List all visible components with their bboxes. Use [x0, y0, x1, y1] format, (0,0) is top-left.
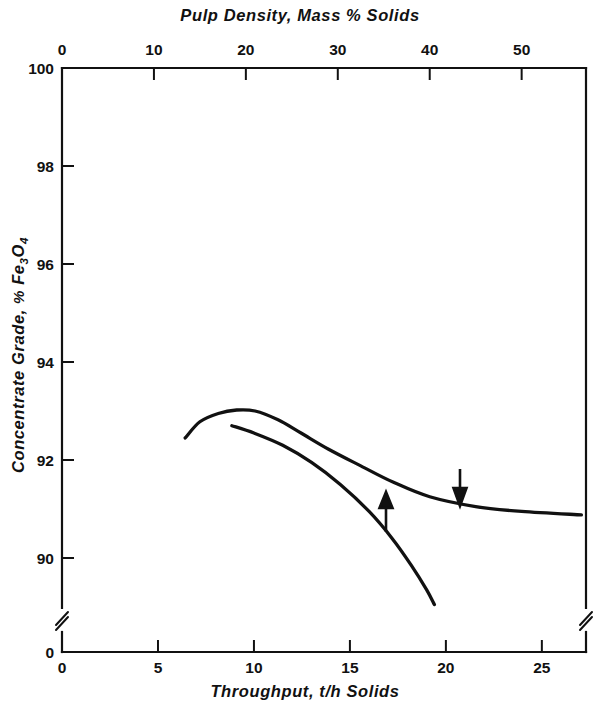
left-axis-break-icon [56, 612, 68, 630]
bottom-tick-label-10: 10 [245, 659, 262, 676]
y-axis-title-fe: Fe [9, 264, 27, 284]
y-axis-title-lead: Concentrate Grade, [9, 304, 27, 473]
y-axis-title-o: O [9, 244, 27, 257]
bottom-axis-tick-labels: 0510152025 [58, 659, 551, 676]
left-tick-label-98: 98 [37, 158, 55, 175]
y-origin-tick-label: 0 [45, 644, 54, 661]
bottom-tick-label-0: 0 [58, 659, 67, 676]
top-tick-label-0: 0 [58, 41, 67, 58]
left-axis-tick-labels: 9092949698100 [28, 60, 54, 567]
down-arrow-annotation [454, 469, 467, 506]
left-tick-label-94: 94 [37, 354, 55, 371]
percent-symbol: % [10, 290, 27, 304]
concentrate-grade-vs-throughput-chart: Pulp Density, Mass % Solids 01020304050 … [0, 0, 601, 710]
left-axis-ticks [62, 166, 74, 558]
left-tick-label-92: 92 [37, 452, 54, 469]
bottom-tick-label-15: 15 [341, 659, 359, 676]
y-axis-title-sub4: 4 [18, 237, 30, 245]
svg-text:Concentrate Grade, % Fe3O4: Concentrate Grade, % Fe3O4 [9, 237, 30, 473]
top-axis-tick-labels: 01020304050 [58, 41, 531, 58]
top-axis-title: Pulp Density, Mass % Solids [180, 6, 419, 24]
right-axis-break-icon [580, 612, 592, 630]
top-tick-label-40: 40 [421, 41, 438, 58]
y-axis-title-sub3: 3 [18, 257, 30, 264]
plot-frame [56, 68, 592, 652]
left-tick-label-100: 100 [28, 60, 54, 77]
top-axis-ticks [62, 68, 522, 80]
x-axis-title: Throughput, t/h Solids [210, 682, 399, 700]
bottom-tick-label-5: 5 [154, 659, 163, 676]
bottom-tick-label-20: 20 [437, 659, 454, 676]
bottom-tick-label-25: 25 [533, 659, 551, 676]
left-tick-label-90: 90 [37, 550, 54, 567]
bottom-axis-ticks [62, 640, 542, 652]
top-tick-label-20: 20 [237, 41, 254, 58]
top-tick-label-30: 30 [329, 41, 346, 58]
y-axis-title: Concentrate Grade, % Fe3O4 [9, 237, 30, 473]
figure-container: Pulp Density, Mass % Solids 01020304050 … [0, 0, 601, 710]
left-tick-label-96: 96 [37, 256, 55, 273]
top-tick-label-50: 50 [513, 41, 530, 58]
top-tick-label-10: 10 [145, 41, 162, 58]
